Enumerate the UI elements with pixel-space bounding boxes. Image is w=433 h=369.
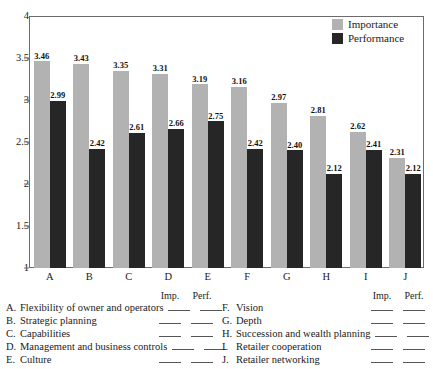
key-imp-input[interactable] (366, 340, 398, 353)
key-imp-input[interactable] (366, 301, 398, 314)
key-imp-input[interactable] (370, 327, 402, 340)
key-row: A.Flexibility of owner and operators (6, 301, 218, 314)
key-header-perf-left: Perf. (186, 291, 218, 301)
bar-group: 3.192.75 (192, 16, 224, 268)
key-row-label: Capabilities (20, 329, 154, 340)
category-key-left: Imp. Perf. A.Flexibility of owner and op… (6, 289, 218, 366)
bar-value-label: 3.31 (153, 64, 168, 73)
key-perf-input[interactable] (186, 327, 218, 340)
key-perf-input[interactable] (186, 353, 218, 366)
key-row-label: Depth (236, 316, 366, 327)
bar-importance: 3.46 (34, 61, 50, 268)
key-perf-input[interactable] (398, 340, 430, 353)
key-row-letter: I. (222, 342, 236, 353)
bar-performance: 2.61 (129, 133, 145, 268)
key-blank-line (159, 336, 181, 337)
key-blank-line (407, 336, 429, 337)
key-imp-input[interactable] (154, 327, 186, 340)
bar-importance: 3.16 (231, 87, 247, 268)
key-perf-input[interactable] (398, 301, 430, 314)
key-blank-line (403, 349, 425, 350)
key-blank-line (191, 336, 213, 337)
key-row: J.Retailer networking (222, 353, 430, 366)
bar-value-label: 2.41 (366, 140, 381, 149)
bar-value-label: 2.99 (50, 91, 65, 100)
key-perf-input[interactable] (398, 353, 430, 366)
bar-performance: 2.75 (208, 121, 224, 268)
key-imp-input[interactable] (163, 301, 195, 314)
x-tick-label: H (310, 272, 342, 283)
key-perf-input[interactable] (402, 327, 433, 340)
key-row: B.Strategic planning (6, 314, 218, 327)
bar-group: 3.432.42 (73, 16, 105, 268)
key-row-letter: H. (222, 329, 236, 340)
key-blank-line (159, 362, 181, 363)
bar-value-label: 2.31 (390, 148, 405, 157)
y-tick-mark (24, 142, 29, 143)
legend-swatch-importance (332, 19, 343, 30)
bar-value-label: 2.97 (271, 93, 286, 102)
key-blank-line (375, 336, 397, 337)
key-row-label: Management and business controls (20, 342, 167, 353)
key-row: G.Depth (222, 314, 430, 327)
bar-value-label: 2.66 (169, 119, 184, 128)
key-row-label: Strategic planning (20, 316, 154, 327)
bar-group: 2.622.41 (350, 16, 382, 268)
bar-performance: 2.12 (405, 174, 421, 268)
key-row: I.Retailer cooperation (222, 340, 430, 353)
bar-value-label: 2.75 (208, 112, 223, 121)
y-tick-mark (24, 100, 29, 101)
bar-importance: 2.81 (310, 116, 326, 268)
key-blank-line (172, 349, 194, 350)
bar-value-label: 2.62 (350, 122, 365, 131)
bar-value-label: 3.19 (192, 75, 207, 84)
key-perf-input[interactable] (186, 314, 218, 327)
y-tick-mark (24, 226, 29, 227)
bar-value-label: 2.42 (248, 139, 263, 148)
key-blank-line (371, 362, 393, 363)
key-row-letter: J. (222, 355, 236, 366)
x-tick-label: I (350, 272, 382, 283)
key-blank-line (159, 323, 181, 324)
x-tick-label: B (73, 272, 105, 283)
bar-value-label: 3.35 (113, 61, 128, 70)
key-row: H.Succession and wealth planning (222, 327, 430, 340)
bar-chart-figure: 43.532.521.51 3.462.993.432.423.352.613.… (0, 0, 433, 290)
bar-value-label: 2.12 (406, 164, 421, 173)
key-imp-input[interactable] (154, 314, 186, 327)
legend-label-performance: Performance (348, 33, 404, 44)
bar-group: 3.162.42 (231, 16, 263, 268)
key-imp-input[interactable] (167, 340, 199, 353)
bar-group: 3.462.99 (34, 16, 66, 268)
x-tick-label: G (271, 272, 303, 283)
y-axis: 43.532.521.51 (0, 0, 29, 290)
key-blank-line (200, 310, 222, 311)
bar-value-label: 3.43 (74, 54, 89, 63)
key-row-letter: G. (222, 316, 236, 327)
x-tick-label: J (389, 272, 421, 283)
key-blank-line (191, 323, 213, 324)
bar-performance: 2.41 (366, 150, 382, 268)
key-imp-input[interactable] (366, 314, 398, 327)
legend-item-performance: Performance (332, 33, 404, 44)
key-row-letter: B. (6, 316, 20, 327)
key-imp-input[interactable] (154, 353, 186, 366)
key-row-letter: C. (6, 329, 20, 340)
bar-importance: 2.62 (350, 132, 366, 268)
legend-label-importance: Importance (348, 19, 398, 30)
y-tick-mark (24, 268, 29, 269)
key-blank-line (371, 349, 393, 350)
key-blank-line (168, 310, 190, 311)
key-row-label: Culture (20, 355, 154, 366)
bar-performance: 2.99 (50, 101, 66, 268)
bar-value-label: 2.12 (327, 164, 342, 173)
key-imp-input[interactable] (366, 353, 398, 366)
bar-value-label: 2.61 (129, 123, 144, 132)
category-key-right: Imp. Perf. F.VisionG.DepthH.Succession a… (222, 289, 430, 366)
bar-value-label: 2.81 (311, 106, 326, 115)
bar-importance: 3.35 (113, 71, 129, 268)
key-perf-input[interactable] (398, 314, 430, 327)
bar-value-label: 2.42 (90, 139, 105, 148)
bar-group: 3.312.66 (152, 16, 184, 268)
key-header-imp-left: Imp. (154, 291, 186, 301)
